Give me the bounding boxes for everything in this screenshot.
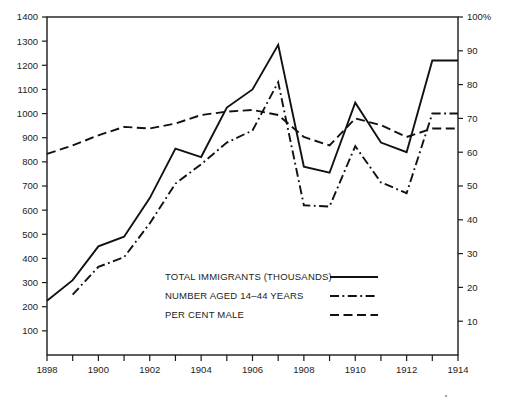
line-chart-canvas: 1002003004005006007008009001000110012001… bbox=[0, 0, 510, 410]
y-axis-tick-label: 1400 bbox=[17, 11, 38, 22]
legend-label-2: PER CENT MALE bbox=[165, 309, 244, 320]
x-axis-tick-label: 1914 bbox=[447, 364, 468, 375]
x-axis-tick-label: 1910 bbox=[345, 364, 366, 375]
x-axis-tick-label: 1906 bbox=[242, 364, 263, 375]
x-axis-tick-label: 1898 bbox=[36, 364, 57, 375]
y2-axis-tick-label: 80 bbox=[467, 79, 478, 90]
y2-axis-tick-label: 100% bbox=[467, 11, 492, 22]
y2-axis-tick-label: 40 bbox=[467, 214, 478, 225]
y2-axis-tick-label: 10 bbox=[467, 316, 478, 327]
y2-axis-tick-label: 90 bbox=[467, 45, 478, 56]
series-line-2 bbox=[47, 110, 458, 154]
chart-figure: 1002003004005006007008009001000110012001… bbox=[0, 0, 510, 410]
y-axis-tick-label: 200 bbox=[22, 301, 38, 312]
y-axis-tick-label: 100 bbox=[22, 325, 38, 336]
y-axis-tick-label: 1100 bbox=[18, 84, 38, 95]
y-axis-tick-label: 400 bbox=[22, 253, 38, 264]
legend-label-0: TOTAL IMMIGRANTS (THOUSANDS) bbox=[165, 271, 332, 282]
y-axis-tick-label: 600 bbox=[22, 205, 38, 216]
x-axis-tick-label: 1908 bbox=[293, 364, 314, 375]
y2-axis-tick-label: 20 bbox=[467, 282, 478, 293]
y2-axis-tick-label: 70 bbox=[467, 113, 478, 124]
y-axis-tick-label: 900 bbox=[22, 132, 38, 143]
y2-axis-tick-label: 50 bbox=[467, 180, 478, 191]
x-axis-tick-label: 1900 bbox=[88, 364, 109, 375]
legend-label-1: NUMBER AGED 14–44 YEARS bbox=[165, 290, 304, 301]
y-axis-tick-label: 300 bbox=[22, 277, 38, 288]
y-axis-tick-label: 500 bbox=[22, 229, 38, 240]
x-axis-tick-label: 1904 bbox=[191, 364, 212, 375]
y-axis-tick-label: 1300 bbox=[17, 36, 38, 47]
y-axis-tick-label: 700 bbox=[22, 180, 38, 191]
page-speck bbox=[445, 395, 447, 397]
y2-axis-tick-label: 30 bbox=[467, 248, 478, 259]
series-line-1 bbox=[73, 82, 458, 294]
y-axis-tick-label: 1200 bbox=[17, 60, 38, 71]
y-axis-tick-label: 800 bbox=[22, 156, 38, 167]
plot-frame bbox=[47, 17, 458, 355]
x-axis-tick-label: 1912 bbox=[396, 364, 417, 375]
y-axis-tick-label: 1000 bbox=[17, 108, 38, 119]
x-axis-tick-label: 1902 bbox=[139, 364, 160, 375]
y2-axis-tick-label: 60 bbox=[467, 147, 478, 158]
